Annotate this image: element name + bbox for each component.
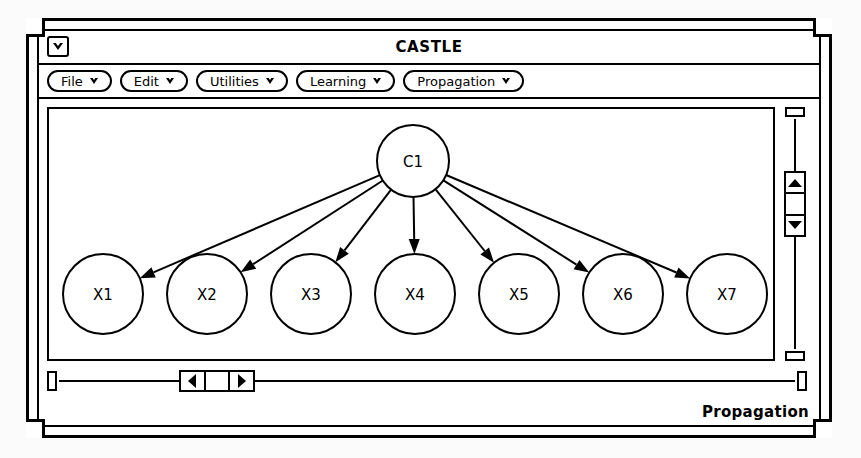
- chevron-down-icon: [166, 78, 174, 84]
- node-label-x7: X7: [717, 286, 737, 304]
- menu-learning[interactable]: Learning: [296, 70, 395, 92]
- menu-propagation-label: Propagation: [417, 75, 495, 88]
- frame-corner-top-right: [813, 18, 832, 37]
- edge-C1-to-X3: [345, 190, 392, 251]
- node-label-x6: X6: [613, 286, 633, 304]
- edge-C1-to-X4: [414, 197, 415, 239]
- node-label-x4: X4: [405, 286, 425, 304]
- arrow-left-icon: [188, 374, 196, 388]
- edge-C1-to-X1: [154, 175, 380, 272]
- menu-edit[interactable]: Edit: [120, 70, 188, 92]
- graph-node-x1[interactable]: X1: [63, 254, 143, 334]
- graph-node-x5[interactable]: X5: [479, 254, 559, 334]
- arrowhead-C1-to-X7: [674, 268, 690, 279]
- hscroll-right-button[interactable]: [228, 372, 253, 390]
- window-outer-frame: CASTLE File Edit Utilities Learning: [26, 18, 832, 438]
- vscroll-elevator[interactable]: [784, 171, 806, 237]
- vscroll-top-anchor[interactable]: [785, 107, 805, 117]
- arrowhead-C1-to-X1: [140, 267, 156, 278]
- frame-corner-bottom-left: [26, 419, 45, 438]
- frame-corner-bottom-right: [813, 419, 832, 438]
- vscroll-up-button[interactable]: [786, 173, 804, 194]
- graph-node-x7[interactable]: X7: [687, 254, 767, 334]
- menu-edit-label: Edit: [134, 75, 159, 88]
- menu-utilities-label: Utilities: [210, 75, 259, 88]
- hscroll-right-anchor[interactable]: [797, 371, 807, 391]
- network-canvas[interactable]: C1X1X2X3X4X5X6X7: [47, 107, 775, 361]
- vscroll-down-button[interactable]: [786, 214, 804, 235]
- arrow-up-icon: [788, 179, 802, 187]
- page-title: CASTLE: [39, 38, 819, 56]
- node-label-c1: C1: [403, 153, 423, 171]
- vscroll-drag-area[interactable]: [786, 194, 804, 213]
- arrow-right-icon: [238, 374, 246, 388]
- menu-file[interactable]: File: [47, 70, 112, 92]
- arrowhead-C1-to-X2: [241, 260, 257, 273]
- hscroll-drag-area[interactable]: [206, 372, 229, 390]
- chevron-down-icon: [266, 78, 274, 84]
- graph-node-x2[interactable]: X2: [167, 254, 247, 334]
- chevron-down-icon: [90, 78, 98, 84]
- node-label-x3: X3: [301, 286, 321, 304]
- horizontal-scrollbar[interactable]: [47, 369, 807, 393]
- node-label-x2: X2: [197, 286, 217, 304]
- hscroll-elevator[interactable]: [179, 370, 255, 392]
- arrow-down-icon: [788, 221, 802, 229]
- graph-node-x4[interactable]: X4: [375, 254, 455, 334]
- arrowhead-C1-to-X6: [574, 260, 590, 273]
- graph-node-x6[interactable]: X6: [583, 254, 663, 334]
- frame-corner-top-left: [26, 18, 45, 37]
- menu-bar: File Edit Utilities Learning Propagation: [39, 65, 819, 99]
- arrowhead-C1-to-X3: [335, 247, 348, 262]
- edge-C1-to-X2: [253, 181, 383, 265]
- bayesian-network-graph[interactable]: C1X1X2X3X4X5X6X7: [49, 109, 773, 359]
- graph-node-x3[interactable]: X3: [271, 254, 351, 334]
- title-bar: CASTLE: [39, 31, 819, 65]
- node-label-x5: X5: [509, 286, 529, 304]
- chevron-down-icon: [502, 78, 510, 84]
- hscroll-left-anchor[interactable]: [47, 371, 57, 391]
- screen-backdrop: CASTLE File Edit Utilities Learning: [0, 0, 861, 458]
- chevron-down-icon: [373, 78, 381, 84]
- arrowhead-C1-to-X4: [409, 239, 420, 254]
- hscroll-track[interactable]: [59, 380, 795, 382]
- vscroll-bottom-anchor[interactable]: [785, 351, 805, 361]
- menu-utilities[interactable]: Utilities: [196, 70, 288, 92]
- menu-file-label: File: [61, 75, 83, 88]
- menu-propagation[interactable]: Propagation: [403, 70, 524, 92]
- menu-learning-label: Learning: [310, 75, 366, 88]
- graph-node-c1[interactable]: C1: [377, 125, 449, 197]
- edge-C1-to-X5: [435, 189, 484, 251]
- status-label: Propagation: [702, 403, 809, 421]
- vertical-scrollbar[interactable]: [783, 107, 807, 361]
- node-label-x1: X1: [93, 286, 113, 304]
- hscroll-left-button[interactable]: [181, 372, 206, 390]
- arrowhead-C1-to-X5: [480, 248, 494, 263]
- application-window: CASTLE File Edit Utilities Learning: [37, 29, 821, 427]
